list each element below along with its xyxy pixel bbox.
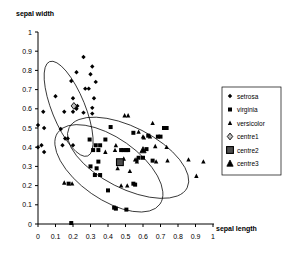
point-versicolor bbox=[194, 174, 198, 178]
legend-label: versicolor bbox=[237, 120, 266, 127]
point-versicolor bbox=[141, 134, 145, 138]
legend-label: setrosa bbox=[237, 93, 259, 100]
legend-label: centre1 bbox=[237, 133, 259, 140]
legend-label: centre2 bbox=[237, 147, 259, 154]
point-virginia bbox=[103, 138, 107, 142]
x-tick-label: 1 bbox=[211, 233, 215, 240]
scatter-chart: sepal width sepal length 00.10.20.30.40.… bbox=[0, 0, 288, 267]
legend: setrosavirginiaversicolorcentre1centre2c… bbox=[222, 87, 281, 175]
point-versicolor bbox=[201, 159, 205, 163]
point-setrosa bbox=[87, 86, 91, 90]
point-setrosa bbox=[71, 109, 75, 113]
y-axis: 00.10.20.30.40.50.60.70.80.91 bbox=[22, 29, 38, 228]
legend-item-centre2[interactable]: centre2 bbox=[227, 147, 259, 154]
x-tick-label: 0.8 bbox=[173, 233, 183, 240]
x-tick-label: 0.7 bbox=[156, 233, 166, 240]
x-tick-label: 0.2 bbox=[68, 233, 78, 240]
x-tick-label: 0.3 bbox=[86, 233, 96, 240]
point-virginia bbox=[124, 208, 128, 212]
legend-label: virginia bbox=[237, 106, 258, 114]
point-setrosa bbox=[62, 109, 66, 113]
point-setrosa bbox=[90, 111, 94, 115]
point-virginia bbox=[89, 164, 93, 168]
point-setrosa bbox=[88, 72, 92, 76]
point-versicolor bbox=[113, 148, 117, 152]
point-virginia bbox=[165, 126, 169, 130]
point-versicolor bbox=[103, 150, 107, 154]
point-virginia bbox=[126, 148, 130, 152]
point-virginia bbox=[91, 148, 95, 152]
point-virginia bbox=[98, 173, 102, 177]
y-tick-label: 0.1 bbox=[22, 201, 32, 208]
y-tick-label: 0.2 bbox=[22, 182, 32, 189]
point-versicolor bbox=[122, 113, 126, 117]
cluster-ellipses bbox=[34, 55, 201, 229]
point-virginia bbox=[133, 183, 137, 187]
point-setrosa bbox=[74, 70, 78, 74]
point-virginia bbox=[151, 159, 155, 163]
point-setrosa bbox=[36, 123, 40, 127]
point-versicolor bbox=[165, 158, 169, 162]
y-axis-title: sepal width bbox=[16, 10, 54, 18]
point-virginia bbox=[93, 173, 97, 177]
point-versicolor bbox=[136, 129, 140, 133]
x-tick-label: 0 bbox=[36, 233, 40, 240]
point-versicolor bbox=[186, 157, 190, 161]
point-versicolor bbox=[153, 144, 157, 148]
point-versicolor bbox=[126, 113, 130, 117]
point-setrosa bbox=[90, 64, 94, 68]
point-setrosa bbox=[90, 106, 94, 110]
y-tick-label: 0.6 bbox=[22, 105, 32, 112]
point-virginia bbox=[88, 138, 92, 142]
point-virginia bbox=[67, 182, 71, 186]
y-tick-label: 0.8 bbox=[22, 67, 32, 74]
point-virginia bbox=[96, 148, 100, 152]
point-setrosa bbox=[42, 150, 46, 154]
point-setrosa bbox=[69, 79, 73, 83]
point-versicolor bbox=[128, 169, 132, 173]
y-tick-label: 0 bbox=[28, 221, 32, 228]
point-setrosa bbox=[36, 145, 40, 149]
point-virginia bbox=[141, 156, 145, 160]
point-versicolor bbox=[114, 143, 118, 147]
point-setrosa bbox=[60, 143, 64, 147]
y-tick-label: 0.7 bbox=[22, 86, 32, 93]
x-axis-title: sepal length bbox=[216, 225, 257, 233]
point-versicolor bbox=[150, 121, 154, 125]
y-tick-label: 0.4 bbox=[22, 144, 32, 151]
x-tick-label: 0.6 bbox=[138, 233, 148, 240]
x-tick-label: 0.9 bbox=[191, 233, 201, 240]
point-virginia bbox=[69, 221, 73, 225]
point-virginia bbox=[98, 143, 102, 147]
point-versicolor bbox=[62, 180, 66, 184]
point-virginia bbox=[131, 131, 135, 135]
x-tick-label: 0.1 bbox=[51, 233, 61, 240]
point-setrosa bbox=[53, 94, 57, 98]
point-setrosa bbox=[39, 143, 43, 147]
y-tick-label: 1 bbox=[28, 29, 32, 36]
point-virginia bbox=[96, 160, 100, 164]
x-axis: 00.10.20.30.40.50.60.70.80.91 bbox=[36, 224, 215, 240]
point-versicolor bbox=[125, 183, 129, 187]
point-setrosa bbox=[92, 96, 96, 100]
legend-label: centre3 bbox=[237, 160, 259, 167]
point-setrosa bbox=[41, 109, 45, 113]
point-virginia bbox=[95, 166, 99, 170]
series-versicolor bbox=[62, 113, 206, 187]
chart-canvas: sepal width sepal length 00.10.20.30.40.… bbox=[0, 0, 288, 267]
legend-marker-centre2 bbox=[227, 147, 234, 154]
point-setrosa bbox=[71, 96, 75, 100]
point-virginia bbox=[109, 125, 113, 129]
series-centre2 bbox=[117, 159, 124, 166]
y-tick-label: 0.9 bbox=[22, 48, 32, 55]
point-virginia bbox=[94, 143, 98, 147]
point-versicolor bbox=[119, 183, 123, 187]
point-versicolor bbox=[115, 166, 119, 170]
versicolor-ellipse bbox=[55, 100, 201, 215]
point-setrosa bbox=[94, 80, 98, 84]
point-setrosa bbox=[42, 126, 46, 130]
y-tick-label: 0.5 bbox=[22, 125, 32, 132]
data-points bbox=[36, 55, 206, 225]
point-virginia bbox=[106, 188, 110, 192]
x-tick-label: 0.5 bbox=[121, 233, 131, 240]
